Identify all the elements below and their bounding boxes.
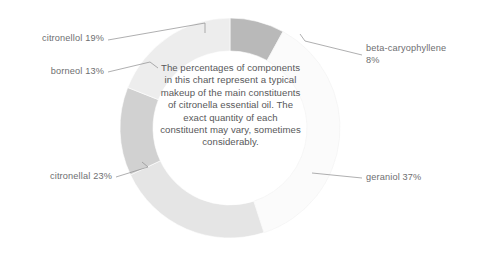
slice-label-citronellol: citronellol 19% [8,33,104,45]
donut-chart: The percentages of components in this ch… [0,0,492,255]
slice-borneol[interactable] [120,88,160,175]
slice-citronellal[interactable] [130,161,264,238]
slice-label-citronellal: citronellal 23% [8,171,112,183]
slice-label-borneol: borneol 13% [8,66,104,78]
slice-geraniol[interactable] [254,32,340,233]
slice-label-geraniol: geraniol 37% [366,172,478,184]
slice-citronellol[interactable] [128,18,230,100]
donut-ring [120,18,340,238]
slice-label-beta-caryophyllene: beta-caryophyllene 8% [366,43,486,66]
